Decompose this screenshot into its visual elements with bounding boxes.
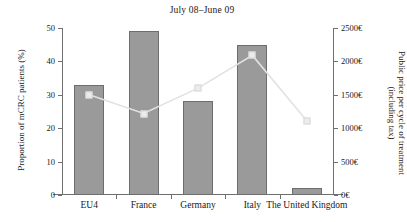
y-axis-left-tick-label: 0	[51, 191, 55, 200]
x-label-italy: Italy	[244, 200, 261, 210]
y-axis-right-tick	[334, 28, 338, 29]
y-axis-left-tick-label: 30	[47, 91, 56, 100]
x-label-germany: Germany	[180, 200, 215, 210]
y-axis-right-tick-label: 1000€	[341, 124, 362, 133]
y-axis-left-title: Proportion of mCRC patients (%)	[16, 25, 26, 195]
y-axis-right-title-line2: (including tax)	[387, 86, 397, 139]
y-axis-right-tick	[334, 195, 338, 196]
y-axis-left-tick-label: 40	[47, 57, 56, 66]
y-axis-right-tick	[334, 128, 338, 129]
chart-title: July 08–June 09	[0, 5, 404, 15]
y-axis-right-title: Public price per cycle of treatment (inc…	[387, 28, 407, 198]
price-marker-france	[140, 110, 147, 117]
y-axis-right-tick	[334, 95, 338, 96]
price-marker-italy	[249, 52, 256, 59]
x-axis-tick	[280, 195, 281, 199]
y-axis-left-tick-label: 20	[47, 124, 56, 133]
x-axis-tick	[116, 195, 117, 199]
y-axis-right-tick-label: 0€	[341, 191, 350, 200]
x-label-eu4: EU4	[80, 200, 97, 210]
x-label-france: France	[131, 200, 157, 210]
price-marker-germany	[195, 85, 202, 92]
plot-area: 01020304050 0€500€1000€1500€2000€2500€	[62, 28, 334, 195]
x-axis-tick	[171, 195, 172, 199]
y-axis-right-tick-label: 2500€	[341, 24, 362, 33]
y-axis-right-tick-label: 2000€	[341, 57, 362, 66]
y-axis-right-tick	[334, 61, 338, 62]
y-axis-left-tick-label: 10	[47, 157, 56, 166]
line-series	[62, 28, 334, 195]
y-axis-right-tick-label: 500€	[341, 157, 358, 166]
x-axis-tick	[225, 195, 226, 199]
y-axis-right-tick-label: 1500€	[341, 91, 362, 100]
y-axis-right-tick	[334, 162, 338, 163]
x-label-the-united-kingdom: The United Kingdom	[266, 200, 347, 210]
price-marker-the-united-kingdom	[303, 117, 310, 124]
y-axis-left-tick-label: 50	[47, 24, 56, 33]
y-axis-right-title-line1: Public price per cycle of treatment	[397, 51, 407, 175]
price-marker-eu4	[86, 91, 93, 98]
y-axis-left-tick	[58, 195, 62, 196]
